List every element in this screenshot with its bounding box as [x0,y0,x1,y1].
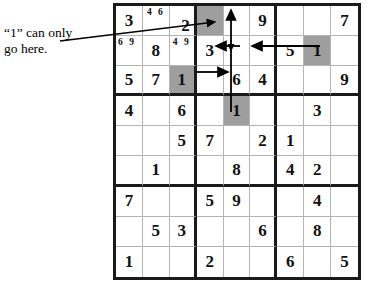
cell-value: 7 [331,12,358,29]
sudoku-cell-r1c3[interactable]: 2 [170,6,197,36]
sudoku-cell-r9c4[interactable]: 2 [197,247,224,277]
sudoku-row: 571649 [116,66,358,96]
sudoku-cell-r8c4[interactable] [197,217,224,247]
cell-value: 9 [331,71,358,88]
sudoku-cell-r4c5[interactable]: 1 [224,96,251,126]
sudoku-cell-r1c7[interactable] [277,6,304,36]
sudoku-cell-r9c6[interactable] [250,247,277,277]
sudoku-cell-r3c3[interactable]: 1 [170,66,197,96]
sudoku-cell-r9c3[interactable] [170,247,197,277]
sudoku-cell-r7c8[interactable]: 4 [304,187,331,217]
cell-value: 5 [331,253,358,270]
sudoku-cell-r3c2[interactable]: 7 [143,66,170,96]
cell-value: 5 [197,192,223,209]
sudoku-cell-r8c9[interactable] [331,217,358,247]
sudoku-cell-r9c7[interactable]: 6 [277,247,304,277]
pencil-marks: 4 9 [170,37,194,48]
sudoku-cell-r7c1[interactable]: 7 [116,187,143,217]
sudoku-cell-r2c4[interactable]: 3 [197,36,224,66]
sudoku-cell-r1c4[interactable] [197,6,224,36]
sudoku-cell-r9c9[interactable]: 5 [331,247,358,277]
sudoku-row: 6 984 9351 [116,36,358,66]
sudoku-cell-r9c1[interactable]: 1 [116,247,143,277]
sudoku-cell-r6c2[interactable]: 1 [143,156,170,186]
sudoku-cell-r8c1[interactable] [116,217,143,247]
sudoku-grid: 34 62976 984 935157164946135721184275945… [113,3,361,280]
sudoku-cell-r4c8[interactable]: 3 [304,96,331,126]
sudoku-cell-r6c1[interactable] [116,156,143,186]
sudoku-cell-r8c7[interactable] [277,217,304,247]
sudoku-row: 7594 [116,187,358,217]
sudoku-cell-r7c3[interactable] [170,187,197,217]
sudoku-cell-r8c6[interactable]: 6 [250,217,277,247]
cell-value: 1 [277,132,303,149]
sudoku-cell-r5c1[interactable] [116,126,143,156]
cell-value: 1 [304,42,330,59]
cell-value: 1 [143,161,169,178]
sudoku-cell-r1c9[interactable]: 7 [331,6,358,36]
sudoku-cell-r4c1[interactable]: 4 [116,96,143,126]
sudoku-cell-r2c3[interactable]: 4 9 [170,36,197,66]
sudoku-cell-r8c8[interactable]: 8 [304,217,331,247]
sudoku-cell-r6c6[interactable] [250,156,277,186]
sudoku-cell-r7c4[interactable]: 5 [197,187,224,217]
sudoku-cell-r7c2[interactable] [143,187,170,217]
sudoku-cell-r2c8[interactable]: 1 [304,36,331,66]
sudoku-cell-r4c7[interactable] [277,96,304,126]
sudoku-cell-r2c9[interactable] [331,36,358,66]
sudoku-cell-r6c4[interactable] [197,156,224,186]
sudoku-cell-r4c3[interactable]: 6 [170,96,197,126]
sudoku-cell-r2c5[interactable] [224,36,251,66]
sudoku-cell-r3c7[interactable] [277,66,304,96]
sudoku-cell-r2c7[interactable]: 5 [277,36,304,66]
sudoku-cell-r1c5[interactable] [224,6,251,36]
sudoku-cell-r6c3[interactable] [170,156,197,186]
sudoku-cell-r3c8[interactable] [304,66,331,96]
sudoku-cell-r4c9[interactable] [331,96,358,126]
sudoku-cell-r7c6[interactable] [250,187,277,217]
cell-value: 9 [224,192,250,209]
sudoku-row: 5721 [116,126,358,156]
sudoku-cell-r2c6[interactable] [250,36,277,66]
sudoku-cell-r3c6[interactable]: 4 [250,66,277,96]
sudoku-cell-r1c1[interactable]: 3 [116,6,143,36]
sudoku-cell-r3c4[interactable] [197,66,224,96]
sudoku-cell-r1c6[interactable]: 9 [250,6,277,36]
sudoku-cell-r7c9[interactable] [331,187,358,217]
sudoku-cell-r5c6[interactable]: 2 [250,126,277,156]
sudoku-cell-r8c5[interactable] [224,217,251,247]
sudoku-cell-r4c2[interactable] [143,96,170,126]
sudoku-cell-r6c9[interactable] [331,156,358,186]
sudoku-cell-r5c7[interactable]: 1 [277,126,304,156]
sudoku-cell-r6c8[interactable]: 2 [304,156,331,186]
sudoku-cell-r2c1[interactable]: 6 9 [116,36,143,66]
cell-value: 6 [170,102,194,119]
sudoku-cell-r9c8[interactable] [304,247,331,277]
sudoku-cell-r5c5[interactable] [224,126,251,156]
sudoku-cell-r2c2[interactable]: 8 [143,36,170,66]
cell-value: 3 [170,222,194,239]
sudoku-cell-r4c6[interactable] [250,96,277,126]
sudoku-cell-r5c9[interactable] [331,126,358,156]
sudoku-cell-r8c3[interactable]: 3 [170,217,197,247]
sudoku-cell-r8c2[interactable]: 5 [143,217,170,247]
sudoku-cell-r4c4[interactable] [197,96,224,126]
sudoku-cell-r5c4[interactable]: 7 [197,126,224,156]
sudoku-cell-r9c2[interactable] [143,247,170,277]
sudoku-cell-r3c1[interactable]: 5 [116,66,143,96]
sudoku-cell-r7c5[interactable]: 9 [224,187,251,217]
sudoku-cell-r9c5[interactable] [224,247,251,277]
sudoku-cell-r6c7[interactable]: 4 [277,156,304,186]
cell-value: 9 [250,12,274,29]
sudoku-cell-r1c8[interactable] [304,6,331,36]
cell-value: 8 [224,161,250,178]
sudoku-cell-r5c8[interactable] [304,126,331,156]
cell-value: 3 [304,102,330,119]
sudoku-cell-r7c7[interactable] [277,187,304,217]
sudoku-cell-r1c2[interactable]: 4 6 [143,6,170,36]
sudoku-cell-r5c3[interactable]: 5 [170,126,197,156]
sudoku-cell-r3c9[interactable]: 9 [331,66,358,96]
sudoku-cell-r3c5[interactable]: 6 [224,66,251,96]
sudoku-cell-r5c2[interactable] [143,126,170,156]
sudoku-cell-r6c5[interactable]: 8 [224,156,251,186]
